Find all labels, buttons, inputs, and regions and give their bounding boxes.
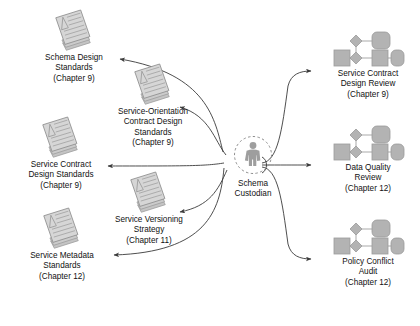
- flow-square-mid: [372, 50, 388, 66]
- node-policy-conflict-audit[interactable]: Policy Conflict Audit (Chapter 12): [318, 216, 418, 288]
- flow-rounded-end: [391, 238, 404, 254]
- arrow-to-service-contract-design-standards: [108, 163, 224, 166]
- flow-diamond-top: [350, 129, 362, 141]
- node-label: Data Quality Review (Chapter 12): [318, 163, 418, 194]
- flow-square-mid: [372, 238, 388, 254]
- flow-square-start: [334, 238, 350, 254]
- person-actor-icon: [232, 135, 274, 177]
- node-service-metadata-standards[interactable]: Service Metadata Standards (Chapter 12): [8, 206, 116, 282]
- node-data-quality-review[interactable]: Data Quality Review (Chapter 12): [318, 122, 418, 194]
- process-flow-icon: [331, 122, 405, 162]
- flow-square-start: [334, 50, 350, 66]
- document-stack-icon: [39, 206, 85, 250]
- node-schema-custodian[interactable]: Schema Custodian: [220, 135, 286, 200]
- node-label: Schema Custodian: [220, 179, 286, 200]
- flow-diamond-mid: [350, 240, 362, 252]
- flow-rounded-end: [391, 144, 404, 160]
- node-label: Service Contract Design Review (Chapter …: [318, 69, 418, 100]
- process-flow-icon: [331, 28, 405, 68]
- flow-square-mid: [372, 144, 388, 160]
- flow-rounded-end: [391, 50, 404, 66]
- flow-rounded-top: [372, 126, 390, 143]
- flow-diamond-top: [350, 223, 362, 235]
- flow-square-start: [334, 144, 350, 160]
- flow-diamond-mid: [350, 146, 362, 158]
- document-stack-icon: [38, 115, 84, 159]
- flow-rounded-top: [372, 220, 390, 237]
- node-service-contract-design-review[interactable]: Service Contract Design Review (Chapter …: [318, 28, 418, 100]
- node-label: Policy Conflict Audit (Chapter 12): [318, 257, 418, 288]
- document-stack-icon: [126, 170, 172, 214]
- flow-diamond-mid: [350, 52, 362, 64]
- process-flow-icon: [331, 216, 405, 256]
- node-label: Service Metadata Standards (Chapter 12): [8, 251, 116, 282]
- document-stack-icon: [130, 62, 176, 106]
- flow-diamond-top: [350, 35, 362, 47]
- document-stack-icon: [51, 8, 97, 52]
- flow-rounded-top: [372, 32, 390, 49]
